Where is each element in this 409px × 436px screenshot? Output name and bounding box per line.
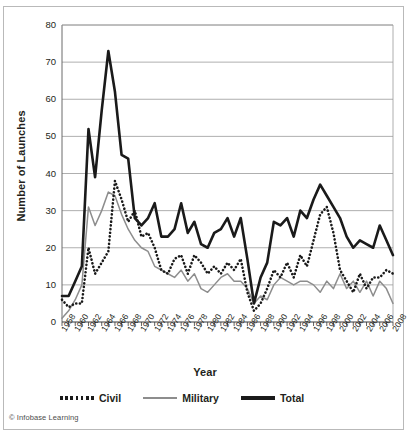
legend-swatch-civil	[60, 396, 94, 399]
legend-item-total: Total	[241, 392, 304, 404]
legend-label-civil: Civil	[99, 392, 121, 404]
chart-page: 01020304050607080 1958196019621964196619…	[0, 0, 409, 436]
legend-item-military: Military	[143, 392, 219, 404]
chart-legend: CivilMilitaryTotal	[60, 390, 360, 406]
y-tick-label: 50	[32, 130, 56, 141]
series-line-civil	[62, 181, 393, 311]
legend-label-military: Military	[182, 392, 219, 404]
y-tick-label: 10	[32, 279, 56, 290]
legend-swatch-total	[241, 396, 275, 400]
x-axis-title: Year	[140, 366, 270, 378]
legend-label-total: Total	[280, 392, 304, 404]
legend-swatch-military	[143, 397, 177, 399]
series-lines	[62, 51, 393, 318]
y-tick-label: 30	[32, 205, 56, 216]
y-axis-title: Number of Launches	[15, 101, 27, 231]
y-tick-label: 60	[32, 93, 56, 104]
y-tick-label: 0	[32, 316, 56, 327]
legend-item-civil: Civil	[60, 392, 121, 404]
y-tick-label: 40	[32, 168, 56, 179]
series-line-total	[62, 51, 393, 303]
chart-area: 01020304050607080 1958196019621964196619…	[0, 0, 409, 436]
y-tick-label: 70	[32, 56, 56, 67]
y-tick-label: 80	[32, 19, 56, 30]
copyright-credit: © Infobase Learning	[9, 413, 79, 422]
y-tick-label: 20	[32, 242, 56, 253]
